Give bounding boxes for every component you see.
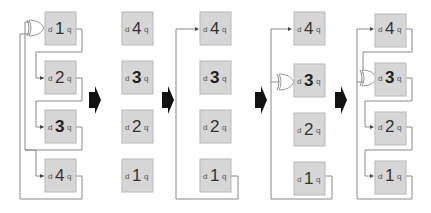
cell-input-label: d: [297, 77, 301, 86]
cell-input-label: d: [125, 74, 129, 83]
cell-number: 1: [55, 19, 64, 38]
cell-input-label: d: [297, 25, 301, 34]
cell-number: 4: [132, 19, 141, 38]
cell-number: 3: [55, 117, 64, 136]
xor-gate-curve: [360, 70, 362, 86]
stage-1: d 1 q d 2 q d 3 q d 4 q: [20, 12, 82, 199]
cell-number: 4: [304, 19, 313, 38]
arrowhead-icon: [195, 27, 199, 31]
cell-output-label: q: [222, 172, 226, 181]
cell-number: 2: [385, 117, 394, 136]
cell-number: 3: [210, 68, 219, 87]
cell-input-label: d: [378, 25, 382, 34]
cell-number: 4: [55, 166, 64, 185]
cell-number: 2: [55, 68, 64, 87]
stage-4: d 4 q d 3 q d 2 q d 1 q: [271, 12, 332, 199]
cell-number: 3: [304, 71, 313, 90]
cell-input-label: d: [48, 172, 52, 181]
cell-input-label: d: [203, 25, 207, 34]
arrowhead-icon: [370, 174, 374, 178]
cell-output-label: q: [144, 25, 148, 34]
cell-output-label: q: [222, 25, 226, 34]
transition-arrow-icon: [335, 86, 347, 114]
cell-input-label: d: [125, 25, 129, 34]
cell-output-label: q: [144, 172, 148, 181]
stage-5: d 4 q d 3 q d 2 q d 1 q: [357, 14, 412, 199]
cell-output-label: q: [316, 25, 320, 34]
lfsr-diagram: d 1 q d 2 q d 3 q d 4 q d 4 q d 3 q d 2 …: [0, 0, 431, 213]
cell-output-label: q: [144, 74, 148, 83]
cell-output-label: q: [67, 172, 71, 181]
cell-input-label: d: [125, 123, 129, 132]
transition-arrow-icon: [89, 86, 101, 114]
cell-input-label: d: [203, 74, 207, 83]
stage-3: d 4 q d 3 q d 2 q d 1 q: [176, 12, 238, 199]
cell-input-label: d: [125, 172, 129, 181]
cell-number: 2: [210, 117, 219, 136]
cell-output-label: q: [316, 77, 320, 86]
cell-number: 4: [210, 19, 219, 38]
cell-input-label: d: [297, 175, 301, 184]
cell-number: 2: [132, 117, 141, 136]
arrowhead-icon: [370, 27, 374, 31]
cell-number: 3: [385, 68, 394, 87]
cell-output-label: q: [397, 74, 401, 83]
wire-q3-to-d4: [25, 150, 44, 176]
cell-output-label: q: [397, 172, 401, 181]
cell-output-label: q: [67, 123, 71, 132]
cell-number: 2: [304, 120, 313, 139]
cell-number: 3: [132, 68, 141, 87]
cell-number: 1: [304, 169, 313, 188]
cell-input-label: d: [378, 172, 382, 181]
cell-number: 4: [385, 19, 394, 38]
arrowhead-icon: [40, 125, 44, 129]
cell-output-label: q: [222, 123, 226, 132]
cell-input-label: d: [203, 172, 207, 181]
transition-arrow-icon: [162, 86, 174, 114]
cell-output-label: q: [67, 74, 71, 83]
cell-output-label: q: [316, 126, 320, 135]
xor-gate-icon: [29, 20, 44, 36]
cell-input-label: d: [378, 123, 382, 132]
stage-2: d 4 q d 3 q d 2 q d 1 q: [122, 12, 153, 192]
cell-number: 1: [210, 166, 219, 185]
cell-input-label: d: [378, 74, 382, 83]
arrowhead-icon: [40, 76, 44, 80]
cell-number: 1: [132, 166, 141, 185]
cell-input-label: d: [48, 74, 52, 83]
cell-output-label: q: [144, 123, 148, 132]
transition-arrow-icon: [255, 86, 267, 114]
cell-input-label: d: [297, 126, 301, 135]
cell-input-label: d: [48, 25, 52, 34]
cell-output-label: q: [316, 175, 320, 184]
cell-number: 1: [385, 166, 394, 185]
cell-output-label: q: [397, 25, 401, 34]
arrowhead-icon: [288, 27, 292, 31]
cell-output-label: q: [67, 25, 71, 34]
cell-input-label: d: [203, 123, 207, 132]
arrowhead-icon: [40, 174, 44, 178]
cell-output-label: q: [222, 74, 226, 83]
arrowhead-icon: [370, 125, 374, 129]
xor-gate-icon: [279, 74, 294, 90]
cell-output-label: q: [397, 123, 401, 132]
cell-input-label: d: [48, 123, 52, 132]
